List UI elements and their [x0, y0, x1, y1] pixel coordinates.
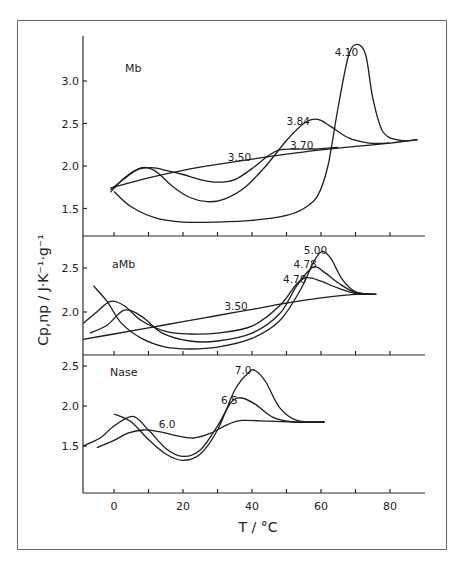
curve-label: 4.78	[293, 258, 316, 270]
curve-label: 3.70	[290, 139, 313, 151]
curve-ph-6.0	[97, 420, 325, 447]
curve-ph-4.10	[114, 44, 418, 222]
x-tick-label: 60	[314, 500, 328, 513]
y-tick-label: 2.0	[62, 306, 80, 319]
curve-ph-7.0	[114, 370, 325, 461]
x-tick-label: 0	[111, 500, 118, 513]
chart-svg: 1.52.02.53.0Mb3.503.703.844.102.02.5aMb3…	[0, 0, 461, 565]
y-tick-label: 2.0	[62, 160, 80, 173]
y-tick-label: 1.5	[62, 440, 80, 453]
panel-label: Nase	[110, 366, 138, 379]
y-axis-title: Cp,np / J·K⁻¹·g⁻¹	[35, 234, 51, 346]
curve-label: 4.10	[335, 46, 358, 58]
curve-label: 3.50	[228, 151, 251, 163]
panels: 1.52.02.53.0Mb3.503.703.844.102.02.5aMb3…	[62, 36, 426, 493]
curve-ph-3.70	[111, 147, 339, 190]
curve-label: 6.5	[221, 394, 238, 406]
curve-label: 4.70	[283, 273, 306, 285]
panel-amb: 2.02.5aMb3.504.704.785.00	[62, 236, 426, 355]
y-tick-label: 2.5	[62, 360, 80, 373]
y-tick-label: 3.0	[62, 75, 80, 88]
x-tick-label: 40	[245, 500, 259, 513]
x-tick-label: 80	[383, 500, 397, 513]
curve-label: 7.0	[235, 364, 252, 376]
y-tick-label: 1.5	[62, 203, 80, 216]
panel-mb: 1.52.02.53.0Mb3.503.703.844.10	[62, 36, 426, 236]
x-axis-tick-labels: 020406080	[111, 500, 398, 513]
y-tick-label: 2.5	[62, 118, 80, 131]
panel-label: aMb	[112, 258, 135, 271]
curve-label: 5.00	[304, 244, 327, 256]
y-tick-label: 2.5	[62, 262, 80, 275]
x-tick-label: 20	[176, 500, 190, 513]
y-tick-label: 2.0	[62, 400, 80, 413]
curve-label: 3.84	[287, 115, 311, 127]
x-axis-title: T / °C	[238, 519, 278, 535]
curve-label: 3.50	[224, 300, 247, 312]
panel-nase: 1.52.02.5Nase6.06.57.0	[62, 355, 426, 493]
curve-ph-3.50	[111, 140, 418, 188]
panel-label: Mb	[125, 62, 141, 75]
curve-ph-6.5	[83, 398, 325, 457]
curve-label: 6.0	[159, 418, 176, 430]
